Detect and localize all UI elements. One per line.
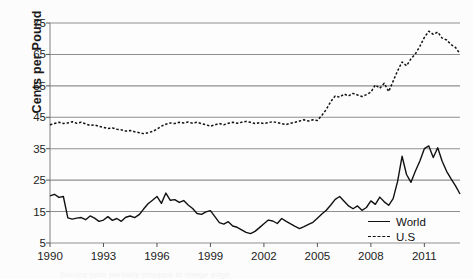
x-tick-label: 1996 bbox=[144, 250, 170, 262]
legend-label: World bbox=[396, 216, 426, 228]
legend-line-solid-icon bbox=[368, 217, 390, 227]
x-tick-label: 1990 bbox=[37, 250, 63, 262]
x-tick-label: 2002 bbox=[251, 250, 277, 262]
x-tick-label: 2008 bbox=[358, 250, 384, 262]
legend-label: U.S bbox=[396, 231, 415, 243]
footer-caption: Source note partially cropped at image e… bbox=[60, 270, 230, 279]
chart-container: Cents per Pound 756555453525155 19901993… bbox=[0, 0, 473, 279]
legend: WorldU.S bbox=[368, 214, 426, 244]
x-tick-label: 1999 bbox=[198, 250, 224, 262]
legend-line-dashed-icon bbox=[368, 232, 390, 242]
x-tick-label: 2011 bbox=[412, 250, 437, 262]
x-tick-label: 1993 bbox=[91, 250, 117, 262]
x-tick-label: 2005 bbox=[305, 250, 331, 262]
legend-item-world[interactable]: World bbox=[368, 214, 426, 229]
legend-item-u-s[interactable]: U.S bbox=[368, 229, 426, 244]
